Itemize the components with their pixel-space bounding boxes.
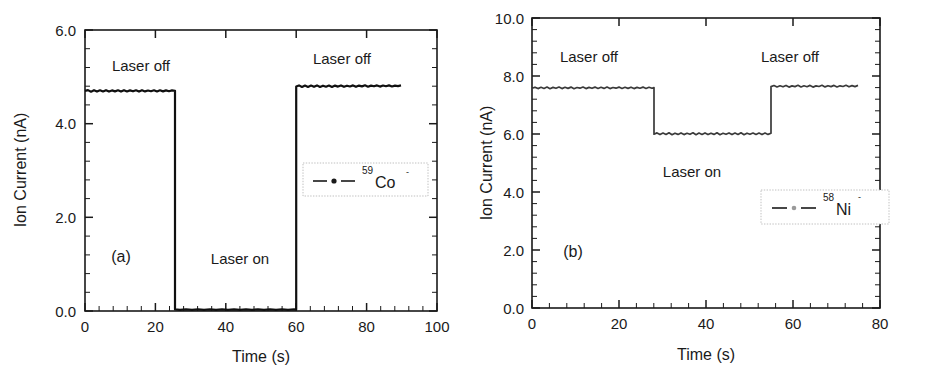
- y-tick-label-b-2: 2.0: [503, 242, 524, 259]
- x-tick-label-b-80: 80: [872, 315, 889, 332]
- legend-marker-dot-b: [792, 206, 797, 211]
- x-axis-title-a: Time (s): [232, 348, 290, 365]
- chart-panel-b: 0 20 40 60 80 0.0 2.0 4.0 6.0 8.0 10.0 T…: [472, 0, 943, 377]
- annotation-laser-off-left-a: Laser off: [112, 57, 171, 74]
- panel-b-svg: 0 20 40 60 80 0.0 2.0 4.0 6.0 8.0 10.0 T…: [472, 0, 943, 377]
- legend-charge-a: -: [406, 167, 409, 177]
- x-tick-label-a-60: 60: [288, 318, 305, 335]
- y-tick-label-a-2: 2.0: [55, 209, 76, 226]
- panel-tag-b: (b): [563, 243, 583, 260]
- y-tick-label-b-10: 10.0: [495, 10, 524, 27]
- legend-element-a: Co: [375, 174, 396, 191]
- annotation-laser-off-left-b: Laser off: [560, 48, 619, 65]
- annotation-laser-off-right-b: Laser off: [761, 48, 820, 65]
- y-tick-label-b-4: 4.0: [503, 184, 524, 201]
- x-tick-label-a-0: 0: [81, 318, 89, 335]
- legend-superscript-a: 59: [362, 165, 374, 176]
- legend-b[interactable]: 58 Ni -: [761, 190, 889, 224]
- x-tick-label-a-100: 100: [424, 318, 449, 335]
- x-tick-label-b-20: 20: [611, 315, 628, 332]
- panel-a-svg: 0 20 40 60 80 100 0.0 2.0 4.0 6.0 Time (…: [0, 0, 472, 377]
- x-tick-label-b-60: 60: [785, 315, 802, 332]
- legend-element-b: Ni: [836, 201, 851, 218]
- legend-a[interactable]: 59 Co -: [303, 163, 428, 196]
- y-axis-title-b: Ion Current (nA): [478, 106, 495, 221]
- y-tick-label-b-0: 0.0: [503, 300, 524, 317]
- y-tick-label-a-6: 6.0: [55, 22, 76, 39]
- panel-tag-a: (a): [111, 248, 131, 265]
- annotation-laser-on-b: Laser on: [663, 163, 721, 180]
- data-trace-a: [85, 85, 401, 309]
- legend-charge-b: -: [858, 192, 861, 202]
- x-tick-label-a-20: 20: [147, 318, 164, 335]
- y-axis-title-a: Ion Current (nA): [12, 113, 29, 228]
- y-tick-label-a-0: 0.0: [55, 303, 76, 320]
- x-tick-label-a-80: 80: [358, 318, 375, 335]
- x-axis-title-b: Time (s): [677, 346, 735, 363]
- legend-marker-dot-a: [331, 178, 336, 183]
- annotation-laser-off-right-a: Laser off: [313, 50, 372, 67]
- x-tick-label-b-0: 0: [528, 315, 536, 332]
- x-tick-label-b-40: 40: [698, 315, 715, 332]
- y-tick-label-b-8: 8.0: [503, 68, 524, 85]
- y-tick-label-b-6: 6.0: [503, 126, 524, 143]
- data-trace-b: [532, 85, 858, 134]
- legend-superscript-b: 58: [823, 192, 835, 203]
- x-tick-label-a-40: 40: [217, 318, 234, 335]
- chart-panel-a: 0 20 40 60 80 100 0.0 2.0 4.0 6.0 Time (…: [0, 0, 472, 377]
- y-tick-label-a-4: 4.0: [55, 115, 76, 132]
- figure-container: 0 20 40 60 80 100 0.0 2.0 4.0 6.0 Time (…: [0, 0, 943, 377]
- annotation-laser-on-a: Laser on: [211, 250, 269, 267]
